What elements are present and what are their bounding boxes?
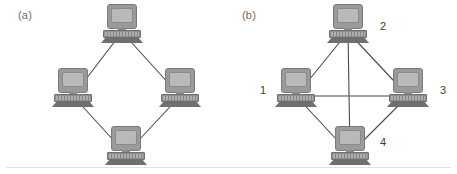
- computer-monitor: [393, 68, 423, 93]
- computer-monitor: [281, 68, 311, 93]
- computer-stand: [275, 101, 317, 107]
- computer-screen: [285, 72, 307, 87]
- computer-icon: [386, 68, 430, 108]
- computer-monitor: [335, 126, 365, 151]
- computer-icon: [328, 126, 372, 166]
- computer-screen: [62, 72, 84, 87]
- node-label-4: 4: [380, 136, 386, 148]
- computer-monitor: [165, 68, 195, 93]
- computer-screen: [115, 130, 137, 145]
- computer-stand: [327, 37, 369, 43]
- computer-monitor: [107, 4, 137, 29]
- computer-stand: [387, 101, 429, 107]
- computer-monitor: [58, 68, 88, 93]
- computer-icon: [274, 68, 318, 108]
- computer-keyboard: [331, 32, 365, 36]
- computer-icon: [326, 4, 370, 44]
- computer-screen: [169, 72, 191, 87]
- footer-divider: [6, 167, 451, 168]
- computer-monitor: [333, 4, 363, 29]
- computer-stand: [159, 101, 201, 107]
- computer-screen: [397, 72, 419, 87]
- node-label-3: 3: [440, 84, 446, 96]
- computer-screen: [339, 130, 361, 145]
- computer-icon: [158, 68, 202, 108]
- computer-keyboard: [333, 154, 367, 158]
- network-topology-figure: (a) (b) 2134: [0, 0, 457, 174]
- computer-screen: [111, 8, 133, 23]
- computer-keyboard: [279, 96, 313, 100]
- panel-b-label: (b): [242, 9, 256, 21]
- computer-stand: [52, 101, 94, 107]
- computer-monitor: [111, 126, 141, 151]
- computer-stand: [105, 159, 147, 165]
- computer-stand: [101, 37, 143, 43]
- panel-a: (a): [0, 0, 228, 174]
- panel-b: (b) 2134: [228, 0, 457, 174]
- computer-icon: [104, 126, 148, 166]
- node-label-1: 1: [260, 84, 266, 96]
- computer-keyboard: [163, 96, 197, 100]
- computer-keyboard: [105, 32, 139, 36]
- computer-icon: [100, 4, 144, 44]
- computer-stand: [329, 159, 371, 165]
- panel-a-label: (a): [18, 9, 32, 21]
- computer-keyboard: [109, 154, 143, 158]
- computer-icon: [51, 68, 95, 108]
- node-label-2: 2: [380, 20, 386, 32]
- computer-screen: [337, 8, 359, 23]
- computer-keyboard: [391, 96, 425, 100]
- computer-keyboard: [56, 96, 90, 100]
